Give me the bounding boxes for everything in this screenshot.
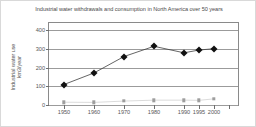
data-point-square [212,97,215,100]
y-tick-label: 0 [42,102,45,108]
y-axis-label-line1: Industrial water use [10,44,16,91]
y-tick-mark [46,105,49,106]
plot-area: 0100200300400 19501960197019801990199520… [48,22,239,106]
y-tick-label: 200 [36,65,45,71]
y-tick-label: 400 [36,27,45,33]
series-polyline [64,46,214,84]
x-tick-label: 1950 [58,109,70,115]
chart-figure: Industrial water withdrawals and consump… [0,0,256,127]
gridline [49,105,238,106]
y-axis-label-line2: km3/year [16,44,22,91]
y-tick-label: 100 [36,83,45,89]
chart-title: Industrial water withdrawals and consump… [1,6,256,12]
y-axis-label: Industrial water use km3/year [9,21,23,113]
series-polyline [64,99,214,103]
x-tick-label: 1995 [193,109,205,115]
data-point-square [197,99,200,102]
data-point-square [62,101,65,104]
y-tick-label: 300 [36,46,45,52]
x-tick-label: 1960 [88,109,100,115]
x-tick-label: 1990 [178,109,190,115]
x-tick-label: 2000 [208,109,220,115]
data-point-square [182,98,185,101]
data-point-square [92,101,95,104]
x-tick-label: 1970 [118,109,130,115]
x-tick-mark [229,105,230,109]
x-tick-label: 1980 [148,109,160,115]
data-point-square [122,99,125,102]
series-lines [49,23,238,105]
data-point-square [152,98,155,101]
